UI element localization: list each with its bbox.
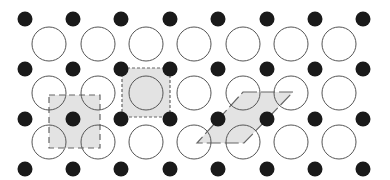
black-atom — [260, 62, 275, 77]
black-atom — [260, 12, 275, 27]
black-atom — [66, 162, 81, 177]
black-atom — [114, 112, 129, 127]
lattice-diagram — [0, 0, 390, 180]
black-atom — [66, 112, 81, 127]
black-atom — [356, 62, 371, 77]
black-atom — [66, 12, 81, 27]
black-atom — [356, 12, 371, 27]
black-atom — [163, 162, 178, 177]
black-atom — [260, 112, 275, 127]
black-atom — [163, 62, 178, 77]
black-atom — [114, 12, 129, 27]
black-atom — [308, 12, 323, 27]
black-atom — [211, 162, 226, 177]
black-atom — [211, 112, 226, 127]
black-atom — [18, 112, 33, 127]
black-atom — [308, 162, 323, 177]
black-atom — [163, 12, 178, 27]
black-atom — [114, 162, 129, 177]
black-atom — [211, 12, 226, 27]
black-atom — [308, 62, 323, 77]
black-atom — [18, 12, 33, 27]
black-atom — [356, 112, 371, 127]
black-atom — [66, 62, 81, 77]
black-atom — [163, 112, 178, 127]
black-atom — [114, 62, 129, 77]
black-atom — [356, 162, 371, 177]
black-atom — [18, 162, 33, 177]
black-atom — [18, 62, 33, 77]
black-atom — [211, 62, 226, 77]
black-atom — [308, 112, 323, 127]
black-atom — [260, 162, 275, 177]
